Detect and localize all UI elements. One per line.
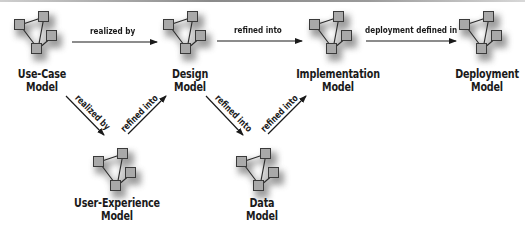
- edge-label-design-implementation: refined into: [234, 25, 282, 35]
- node-label-deployment: Deployment Model: [455, 67, 519, 93]
- user-experience-model-icon: [94, 149, 142, 199]
- node-label-data: Data Model: [246, 196, 278, 222]
- design-model-icon: [164, 12, 212, 62]
- node-label-line2: Model: [172, 80, 208, 93]
- deployment-model-icon: [460, 12, 508, 62]
- implementation-model-icon: [310, 12, 358, 62]
- node-label-user-experience: User-Experience Model: [74, 196, 160, 222]
- node-label-design: Design Model: [172, 67, 208, 93]
- node-label-line2: Model: [18, 80, 66, 93]
- node-label-line2: Model: [455, 80, 519, 93]
- node-label-line2: Model: [74, 209, 160, 222]
- use-case-model-icon: [15, 12, 63, 62]
- node-label-line2: Model: [246, 209, 278, 222]
- edge-label-implementation-deployment: deployment defined in: [365, 25, 457, 35]
- node-label-use-case: Use-Case Model: [18, 67, 66, 93]
- edge-label-usecase-design: realized by: [90, 26, 135, 36]
- data-model-icon: [237, 149, 285, 199]
- node-label-line2: Model: [296, 80, 380, 93]
- node-label-implementation: Implementation Model: [296, 67, 380, 93]
